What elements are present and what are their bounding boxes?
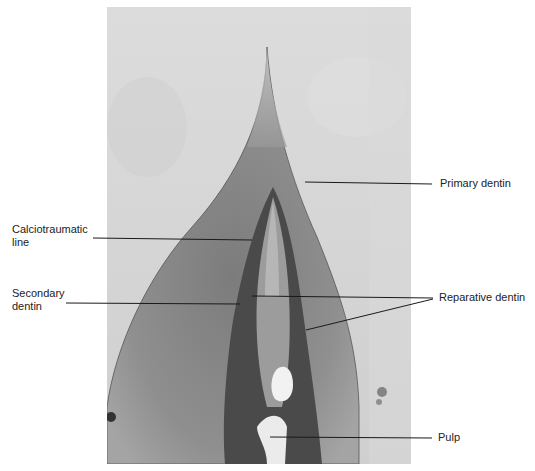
figure: Primary dentin Calciotraumatic line Seco… [0,0,535,471]
label-reparative-dentin: Reparative dentin [439,291,525,304]
label-secondary-dentin-text-2: dentin [12,300,65,313]
label-reparative-dentin-text: Reparative dentin [439,291,525,304]
label-primary-dentin: Primary dentin [440,177,511,190]
micrograph-image [107,7,411,464]
label-calciotraumatic-line-text-2: line [12,236,88,249]
label-secondary-dentin-text-1: Secondary [12,287,65,300]
label-primary-dentin-text: Primary dentin [440,177,511,190]
label-calciotraumatic-line-text-1: Calciotraumatic [12,223,88,236]
label-pulp: Pulp [438,431,460,444]
label-pulp-text: Pulp [438,431,460,444]
label-secondary-dentin: Secondary dentin [12,287,65,313]
label-calciotraumatic-line: Calciotraumatic line [12,223,88,249]
